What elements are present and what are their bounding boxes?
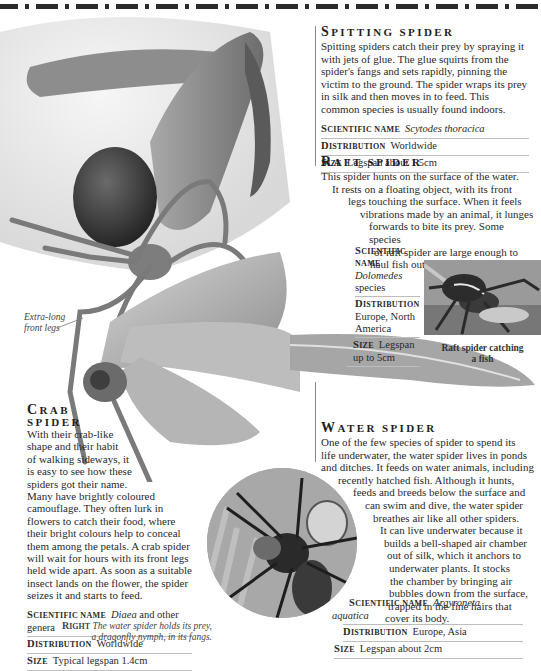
- water-spider-facts: Scientific nameArgyronetaaquatica Distri…: [343, 596, 523, 659]
- water-spider-heading: Water spider: [321, 420, 536, 436]
- crab-spider-description: With their crab-like shape and their hab…: [27, 428, 197, 602]
- spitting-spider-section: Spitting spider Spitting spiders catch t…: [321, 24, 529, 173]
- raft-spider-photo: [424, 260, 541, 335]
- spitting-spider-description: Spitting spiders catch their prey by spr…: [321, 40, 529, 116]
- caption-line-1: Right The water spider holds its prey,: [60, 620, 212, 632]
- water-spider-photo-caption: Right The water spider holds its prey, a…: [60, 620, 212, 643]
- water-spider-section: Water spider One of the few species of s…: [321, 420, 536, 625]
- caption-line-2: a fish: [430, 354, 535, 365]
- fact-size: SizeLegspan about 2cm: [334, 642, 523, 659]
- fact-scientific-name: Scientific nameArgyronetaaquatica: [343, 596, 523, 625]
- caption-line-2: a dragonfly nymph, in its fangs.: [60, 632, 212, 643]
- divider-spitting: [315, 26, 316, 166]
- fact-size: SizeTypical legspan 1.4cm: [27, 654, 192, 671]
- fact-scientific-name: Scientific nameScytodes thoracica: [321, 122, 529, 139]
- fact-distribution: DistributionEurope, North America: [355, 297, 420, 338]
- raft-spider-description: This spider hunts on the surface of the …: [321, 170, 536, 271]
- raft-spider-heading: Raft spider: [321, 154, 536, 170]
- spitting-spider-heading: Spitting spider: [321, 24, 529, 40]
- fact-size: SizeLegspan up to 5cm: [347, 338, 420, 367]
- raft-spider-facts: Scientific nameDolomedesspecies Distribu…: [355, 244, 420, 367]
- crab-spider-heading: Crabspider: [27, 404, 197, 428]
- raft-spider-section: Raft spider This spider hunts on the sur…: [321, 154, 536, 271]
- raft-spider-photo-caption: Raft spider catching a fish: [430, 343, 535, 365]
- annotation-pointer-line: [55, 316, 85, 330]
- fact-scientific-name: Scientific nameDolomedesspecies: [355, 244, 420, 297]
- divider-water: [315, 382, 316, 462]
- caption-line-1: Raft spider catching: [430, 343, 535, 354]
- fact-distribution: DistributionWorldwide: [321, 139, 529, 156]
- fact-distribution: DistributionEurope, Asia: [343, 625, 523, 642]
- top-border-decoration: [0, 4, 541, 9]
